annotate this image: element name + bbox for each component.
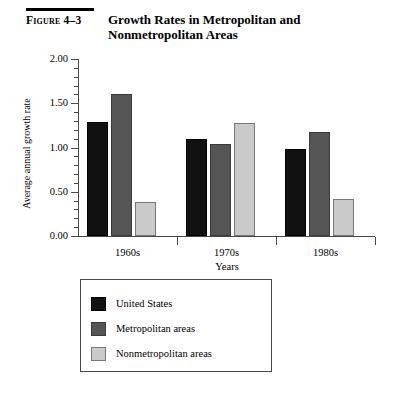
x-tick	[375, 237, 376, 245]
x-tick-label: 1980s	[281, 247, 371, 258]
bar	[285, 149, 306, 236]
y-tick-minor	[74, 218, 78, 219]
y-tick-minor	[74, 77, 78, 78]
legend-swatch-icon	[91, 297, 106, 311]
x-tick-label: 1960s	[83, 247, 173, 258]
y-tick-minor	[74, 174, 78, 175]
y-tick-label: 2.00	[28, 54, 68, 64]
y-tick-major	[71, 192, 78, 193]
bar	[210, 144, 231, 236]
y-tick-major	[71, 59, 78, 60]
y-tick-major	[71, 236, 78, 237]
legend-swatch-icon	[91, 347, 106, 361]
legend-item-label: United States	[116, 296, 172, 311]
y-tick-minor	[74, 94, 78, 95]
bar	[111, 94, 132, 236]
y-tick-minor	[74, 112, 78, 113]
x-axis-title: Years	[182, 261, 272, 272]
y-tick-minor	[74, 201, 78, 202]
bar	[186, 139, 207, 236]
y-tick-minor	[74, 156, 78, 157]
y-tick-label: 0.00	[28, 231, 68, 241]
y-tick-major	[71, 103, 78, 104]
bar	[333, 199, 354, 236]
legend-swatch-icon	[91, 322, 106, 336]
y-tick-major	[71, 148, 78, 149]
bar	[309, 132, 330, 236]
y-tick-minor	[74, 86, 78, 87]
y-tick-label: 1.50	[28, 98, 68, 108]
y-tick-minor	[74, 121, 78, 122]
x-tick-label: 1970s	[182, 247, 272, 258]
x-tick	[276, 237, 277, 245]
x-tick	[177, 237, 178, 245]
y-axis-line	[78, 59, 79, 237]
chart-legend: United StatesMetropolitan areasNonmetrop…	[80, 279, 272, 372]
y-tick-minor	[74, 68, 78, 69]
legend-item-label: Metropolitan areas	[116, 321, 195, 336]
y-tick-label: 0.50	[28, 187, 68, 197]
legend-item-label: Nonmetropolitan areas	[116, 346, 212, 361]
y-tick-minor	[74, 139, 78, 140]
bar	[135, 202, 156, 236]
x-axis-line	[78, 236, 375, 237]
bar	[234, 123, 255, 236]
y-tick-minor	[74, 183, 78, 184]
y-axis-title: Average annual growth rate	[21, 79, 32, 229]
y-tick-minor	[74, 209, 78, 210]
y-tick-label: 1.00	[28, 143, 68, 153]
y-tick-minor	[74, 165, 78, 166]
y-tick-minor	[74, 130, 78, 131]
bar	[87, 122, 108, 236]
y-tick-minor	[74, 227, 78, 228]
